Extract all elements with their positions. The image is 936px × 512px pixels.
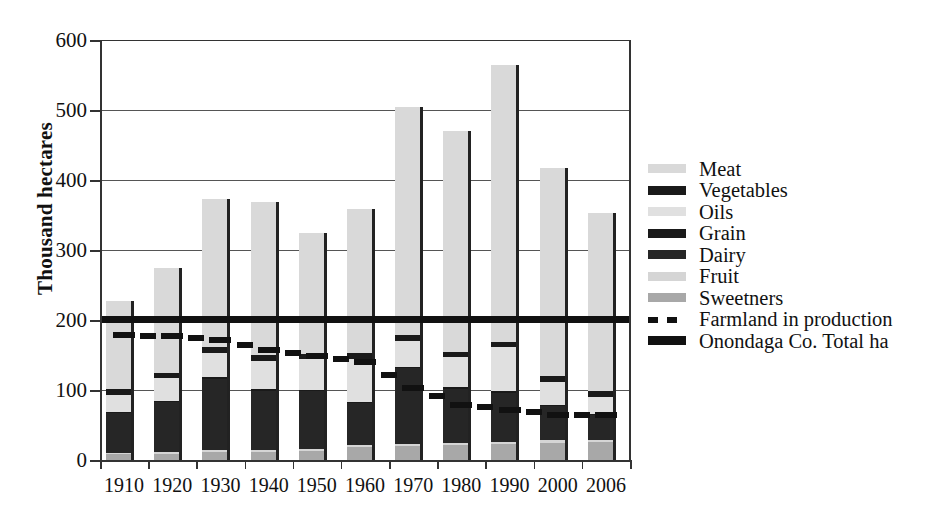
- legend-label: Dairy: [699, 245, 746, 266]
- legend-item-farmland-in-production[interactable]: Farmland in production: [648, 309, 893, 331]
- x-tick: [389, 460, 391, 469]
- farmland-dash: [188, 335, 204, 341]
- legend-item-oils[interactable]: Oils: [648, 201, 893, 223]
- x-tick: [100, 460, 102, 469]
- legend-item-onondaga-co-total-ha[interactable]: Onondaga Co. Total ha: [648, 330, 893, 352]
- farmland-dash: [499, 407, 521, 413]
- x-tick: [341, 460, 343, 469]
- x-tick-label: 2006: [586, 474, 626, 497]
- farmland-dash: [547, 412, 569, 418]
- legend-swatch-fruit: [648, 272, 686, 281]
- x-tick: [293, 460, 295, 469]
- farmland-dash: [526, 409, 542, 415]
- x-tick: [148, 460, 150, 469]
- x-tick: [485, 460, 487, 469]
- x-tick-label: 1950: [297, 474, 337, 497]
- y-tick: [90, 250, 100, 252]
- legend-item-vegetables[interactable]: Vegetables: [648, 180, 893, 202]
- x-tick-label: 1930: [200, 474, 240, 497]
- y-tick: [90, 110, 100, 112]
- legend-label: Farmland in production: [699, 309, 893, 330]
- legend-item-meat[interactable]: Meat: [648, 158, 893, 180]
- x-tick-label: 1990: [490, 474, 530, 497]
- farmland-dash: [285, 350, 301, 356]
- x-tick-label: 2000: [538, 474, 578, 497]
- farmland-dash: [140, 333, 156, 339]
- farmland-dash: [402, 385, 424, 391]
- farmland-dash: [333, 356, 349, 362]
- farmland-dash: [595, 412, 617, 418]
- legend-item-sweetners[interactable]: Sweetners: [648, 287, 893, 309]
- farmland-dash: [306, 353, 328, 359]
- legend-item-fruit[interactable]: Fruit: [648, 266, 893, 288]
- y-tick: [90, 180, 100, 182]
- x-tick-label: 1910: [104, 474, 144, 497]
- y-tick-label: 500: [56, 100, 88, 121]
- x-axis-line: [100, 460, 632, 462]
- legend-swatch-farmland: [648, 315, 686, 324]
- y-tick-label: 0: [77, 450, 88, 471]
- onondaga-total-line: [100, 316, 630, 323]
- legend-swatch-oils: [648, 207, 686, 216]
- farmland-dash: [258, 347, 280, 353]
- chart-figure: Thousand hectares 0100200300400500600 19…: [0, 0, 936, 512]
- farmland-dash: [209, 337, 231, 343]
- legend-label: Sweetners: [699, 288, 783, 309]
- right-axis-line: [629, 40, 631, 461]
- legend-label: Meat: [699, 159, 741, 180]
- x-tick: [630, 460, 632, 469]
- y-tick-label: 100: [56, 380, 88, 401]
- x-tick-label: 1920: [152, 474, 192, 497]
- y-tick: [90, 320, 100, 322]
- legend-label: Fruit: [699, 266, 739, 287]
- y-axis-title: Thousand hectares: [33, 79, 58, 339]
- farmland-dash: [354, 359, 376, 365]
- farmland-in-production-line: [100, 40, 630, 460]
- y-tick: [90, 40, 100, 42]
- y-tick: [90, 460, 100, 462]
- legend-swatch-dairy: [648, 250, 686, 259]
- legend-item-dairy[interactable]: Dairy: [648, 244, 893, 266]
- farmland-dash: [113, 332, 135, 338]
- x-tick: [196, 460, 198, 469]
- farmland-dash: [574, 412, 590, 418]
- y-tick-label: 200: [56, 310, 88, 331]
- legend-label: Oils: [699, 202, 733, 223]
- x-tick-label: 1970: [393, 474, 433, 497]
- y-tick-label: 600: [56, 30, 88, 51]
- farmland-dash: [429, 393, 445, 399]
- legend-swatch-sweetners: [648, 293, 686, 302]
- legend-swatch-grain: [648, 229, 686, 238]
- y-axis-line: [100, 40, 102, 461]
- y-tick: [90, 390, 100, 392]
- legend-item-grain[interactable]: Grain: [648, 223, 893, 245]
- y-tick-label: 300: [56, 240, 88, 261]
- x-tick-label: 1980: [441, 474, 481, 497]
- farmland-dash: [237, 342, 253, 348]
- x-tick-label: 1960: [345, 474, 385, 497]
- legend-swatch-vegetables: [648, 186, 686, 195]
- farmland-dash: [450, 402, 472, 408]
- y-tick-label: 400: [56, 170, 88, 191]
- legend-label: Grain: [699, 223, 746, 244]
- legend-swatch-meat: [648, 164, 686, 173]
- legend-swatch-total: [648, 336, 686, 345]
- x-tick: [245, 460, 247, 469]
- x-tick: [582, 460, 584, 469]
- farmland-dash: [381, 372, 397, 378]
- legend-label: Vegetables: [699, 180, 788, 201]
- x-tick: [437, 460, 439, 469]
- x-tick-label: 1940: [249, 474, 289, 497]
- legend-label: Onondaga Co. Total ha: [699, 331, 889, 352]
- legend: MeatVegetablesOilsGrainDairyFruitSweetne…: [648, 158, 893, 352]
- plot-area: 0100200300400500600 19101920193019401950…: [100, 40, 630, 460]
- farmland-dash: [477, 404, 493, 410]
- x-tick: [534, 460, 536, 469]
- farmland-dash: [161, 333, 183, 339]
